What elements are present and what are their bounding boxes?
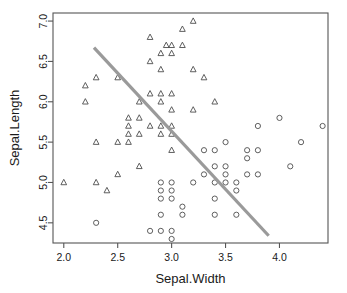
data-point-circle (180, 204, 185, 209)
data-point-circle (158, 180, 163, 185)
data-point-circle (277, 115, 282, 120)
data-point-triangle (136, 131, 142, 136)
x-axis-label: Sepal.Width (155, 271, 225, 286)
y-axis-ticks (48, 21, 53, 223)
data-point-circle (212, 148, 217, 153)
data-point-triangle (212, 99, 218, 104)
data-point-triangle (136, 163, 142, 168)
x-axis-tick-labels: 2.02.53.03.54.0 (56, 251, 286, 263)
data-point-circle (255, 172, 260, 177)
data-point-circle (245, 172, 250, 177)
data-point-triangle (147, 58, 153, 63)
data-point-triangle (115, 171, 121, 176)
data-point-circle (255, 123, 260, 128)
data-point-triangle (169, 107, 175, 112)
data-point-triangle (126, 115, 132, 120)
data-point-circle (212, 212, 217, 217)
data-point-circle (223, 140, 228, 145)
x-tick-label: 2.5 (110, 251, 125, 263)
data-point-triangle (190, 107, 196, 112)
data-point-triangle (61, 179, 67, 184)
data-point-triangle (93, 179, 99, 184)
x-tick-label: 3.5 (218, 251, 233, 263)
data-point-triangle (158, 50, 164, 55)
data-point-triangle (158, 131, 164, 136)
data-point-circle (234, 188, 239, 193)
data-point-triangle (115, 139, 121, 144)
data-point-circle (201, 148, 206, 153)
data-point-circle (255, 148, 260, 153)
data-point-triangle (126, 139, 132, 144)
data-point-circle (169, 196, 174, 201)
series-triangle-points (61, 18, 218, 193)
data-point-circle (147, 228, 152, 233)
y-tick-label: 7.0 (37, 14, 49, 29)
data-point-circle (180, 212, 185, 217)
data-point-circle (223, 180, 228, 185)
data-point-triangle (126, 123, 132, 128)
data-point-triangle (169, 50, 175, 55)
x-tick-label: 4.0 (272, 251, 287, 263)
data-point-triangle (93, 74, 99, 79)
data-point-circle (234, 212, 239, 217)
data-point-circle (158, 212, 163, 217)
data-point-circle (212, 164, 217, 169)
data-point-circle (169, 228, 174, 233)
data-point-triangle (190, 66, 196, 71)
data-point-circle (298, 140, 303, 145)
data-point-circle (223, 164, 228, 169)
y-tick-label: 5.5 (37, 135, 49, 150)
data-point-triangle (83, 82, 89, 87)
data-point-triangle (158, 66, 164, 71)
data-point-triangle (169, 42, 175, 47)
data-point-circle (245, 148, 250, 153)
data-point-circle (288, 164, 293, 169)
x-tick-label: 3.0 (164, 251, 179, 263)
data-point-triangle (163, 42, 169, 47)
data-point-triangle (83, 99, 89, 104)
data-point-triangle (180, 42, 186, 47)
data-point-circle (94, 220, 99, 225)
regression-line (94, 48, 269, 236)
data-point-triangle (169, 91, 175, 96)
data-point-circle (191, 180, 196, 185)
data-point-circle (158, 188, 163, 193)
data-point-circle (320, 123, 325, 128)
data-point-circle (234, 180, 239, 185)
data-point-triangle (158, 91, 164, 96)
data-point-triangle (126, 131, 132, 136)
data-point-circle (212, 196, 217, 201)
data-point-triangle (93, 139, 99, 144)
x-axis-ticks (64, 243, 280, 248)
data-point-circle (169, 236, 174, 241)
data-point-circle (169, 188, 174, 193)
data-point-circle (158, 196, 163, 201)
data-point-triangle (147, 34, 153, 39)
data-point-circle (201, 172, 206, 177)
data-point-triangle (190, 18, 196, 23)
data-point-triangle (136, 115, 142, 120)
data-point-triangle (169, 147, 175, 152)
y-tick-label: 6.0 (37, 94, 49, 109)
data-point-triangle (180, 26, 186, 31)
data-point-circle (245, 156, 250, 161)
data-point-triangle (104, 187, 110, 192)
series-circle-points (94, 115, 326, 241)
y-tick-label: 4.5 (37, 215, 49, 230)
x-tick-label: 2.0 (56, 251, 71, 263)
data-point-triangle (158, 99, 164, 104)
data-point-circle (169, 180, 174, 185)
data-point-triangle (147, 91, 153, 96)
y-tick-label: 6.5 (37, 54, 49, 69)
scatter-plot-figure: 2.02.53.03.54.0 4.55.05.56.06.57.0 Sepal… (0, 0, 347, 293)
data-point-triangle (201, 74, 207, 79)
trend-line-group (94, 48, 269, 236)
y-axis-label: Sepal.Length (7, 90, 22, 167)
y-axis-tick-labels: 4.55.05.56.06.57.0 (37, 14, 49, 231)
data-point-circle (223, 172, 228, 177)
data-point-triangle (147, 123, 153, 128)
data-point-circle (158, 228, 163, 233)
plot-canvas: 2.02.53.03.54.0 4.55.05.56.06.57.0 Sepal… (0, 0, 347, 293)
y-tick-label: 5.0 (37, 175, 49, 190)
